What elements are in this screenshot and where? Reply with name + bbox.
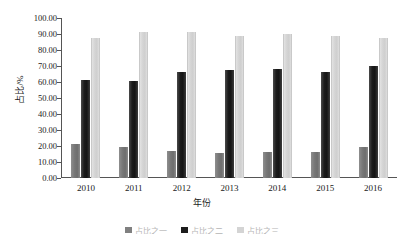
x-axis-tick-label: 2012: [158, 181, 206, 195]
y-axis-tick-mark: [57, 82, 61, 83]
y-axis-tick-label: 10.00: [38, 158, 57, 167]
x-axis-title: 年份: [0, 196, 404, 209]
legend-label: 占比之二: [191, 226, 223, 234]
y-axis-tick-label: 100.00: [34, 14, 57, 23]
bar-group: [110, 18, 158, 178]
y-axis-tick-label: 60.00: [38, 78, 57, 87]
bar[interactable]: [321, 72, 330, 178]
y-axis-tick-mark: [57, 114, 61, 115]
bar[interactable]: [359, 147, 368, 178]
bar[interactable]: [167, 151, 176, 178]
y-axis-tick-mark: [57, 66, 61, 67]
bar[interactable]: [331, 36, 340, 178]
x-axis-tick-label: 2014: [253, 181, 301, 195]
legend-swatch-icon: [181, 227, 188, 233]
bar[interactable]: [273, 69, 282, 178]
bar-group: [301, 18, 349, 178]
y-axis-tick-mark: [57, 34, 61, 35]
x-axis-tick-labels: 2010201120122013201420152016: [62, 181, 397, 195]
chart-legend: 占比之一占比之二占比之三: [0, 226, 404, 234]
bar[interactable]: [263, 152, 272, 178]
y-axis-tick-mark: [57, 162, 61, 163]
legend-item[interactable]: 占比之三: [237, 226, 279, 234]
y-axis-tick-mark: [57, 98, 61, 99]
legend-swatch-icon: [125, 227, 132, 233]
bar[interactable]: [311, 152, 320, 178]
legend-item[interactable]: 占比之二: [181, 226, 223, 234]
bar[interactable]: [139, 32, 148, 178]
legend-label: 占比之三: [247, 226, 279, 234]
legend-swatch-icon: [237, 227, 244, 233]
x-axis-tick-label: 2011: [110, 181, 158, 195]
bar[interactable]: [187, 32, 196, 178]
y-axis-tick-mark: [57, 50, 61, 51]
bar[interactable]: [379, 38, 388, 178]
y-axis-tick-mark: [57, 130, 61, 131]
bar[interactable]: [369, 66, 378, 178]
x-axis-tick-label: 2016: [349, 181, 397, 195]
y-axis-tick-mark: [57, 178, 61, 179]
bar-group: [349, 18, 397, 178]
y-axis-tick-label: 50.00: [38, 94, 57, 103]
x-axis-tick-label: 2013: [206, 181, 254, 195]
y-axis-tick-label: 90.00: [38, 30, 57, 39]
y-axis-tick-label: 0.00: [42, 174, 57, 183]
legend-item[interactable]: 占比之一: [125, 226, 167, 234]
x-axis-tick-label: 2010: [62, 181, 110, 195]
y-axis-tick-label: 30.00: [38, 126, 57, 135]
bar[interactable]: [91, 38, 100, 178]
bar[interactable]: [225, 70, 234, 178]
y-axis-tick-label: 80.00: [38, 46, 57, 55]
bar-group: [253, 18, 301, 178]
bar-group: [158, 18, 206, 178]
plot-area: [61, 18, 397, 178]
bar-chart: 占比/% 100.0090.0080.0070.0060.0050.0040.0…: [0, 0, 404, 234]
y-axis-tick-mark: [57, 18, 61, 19]
bar[interactable]: [177, 72, 186, 178]
y-axis-tick-mark: [57, 146, 61, 147]
bar[interactable]: [235, 36, 244, 178]
bar[interactable]: [129, 81, 138, 178]
bar[interactable]: [71, 144, 80, 178]
y-axis-tick-labels: 100.0090.0080.0070.0060.0050.0040.0030.0…: [22, 18, 60, 178]
bar[interactable]: [283, 34, 292, 178]
bar[interactable]: [215, 153, 224, 178]
bar[interactable]: [81, 80, 90, 178]
bar[interactable]: [119, 147, 128, 178]
legend-label: 占比之一: [135, 226, 167, 234]
bar-groups: [62, 18, 397, 178]
y-axis-tick-label: 70.00: [38, 62, 57, 71]
x-axis-tick-label: 2015: [301, 181, 349, 195]
y-axis-tick-label: 40.00: [38, 110, 57, 119]
bar-group: [62, 18, 110, 178]
bar-group: [206, 18, 254, 178]
y-axis-tick-label: 20.00: [38, 142, 57, 151]
